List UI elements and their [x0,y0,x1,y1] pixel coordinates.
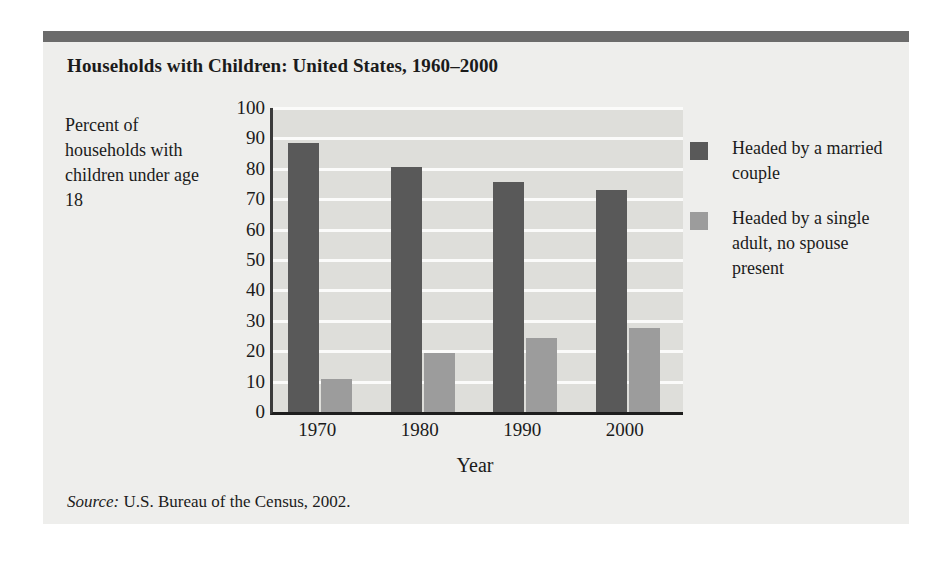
legend-swatch-icon [690,212,708,230]
x-tick-label-1980: 1980 [401,419,439,441]
plot-area [270,108,683,415]
y-tick-label: 40 [246,279,265,301]
legend-item-label: Headed by a married couple [732,136,900,186]
bar-2000-series1 [596,190,627,412]
bar-1970-series1 [288,143,319,412]
y-tick-label: 80 [246,158,265,180]
x-tick-label-2000: 2000 [606,419,644,441]
legend: Headed by a married coupleHeaded by a si… [690,136,900,301]
source-text: U.S. Bureau of the Census, 2002. [119,492,350,511]
source-note: Source: U.S. Bureau of the Census, 2002. [67,492,351,512]
y-tick-label: 70 [246,188,265,210]
y-axis-tick-labels: 0102030405060708090100 [193,108,265,412]
legend-swatch-icon [690,142,708,160]
y-tick-label: 30 [246,310,265,332]
x-axis-tick-labels: 1970198019902000 [270,419,680,445]
gridline [273,168,683,171]
y-tick-label: 20 [246,340,265,362]
figure-panel: Households with Children: United States,… [43,31,909,524]
gridline [273,137,683,140]
y-tick-label: 10 [246,371,265,393]
source-label: Source: [67,492,119,511]
y-tick-label: 60 [246,219,265,241]
y-tick-label: 50 [246,249,265,271]
legend-item-2[interactable]: Headed by a single adult, no spouse pres… [690,206,900,281]
y-tick-label: 90 [246,127,265,149]
gridline [273,107,683,110]
bar-1990-series1 [493,182,524,412]
y-tick-label: 0 [256,401,266,423]
bar-1970-series2 [321,379,352,412]
y-tick-label: 100 [237,97,266,119]
legend-item-label: Headed by a single adult, no spouse pres… [732,206,900,281]
bar-1980-series2 [424,353,455,412]
bar-2000-series2 [629,328,660,412]
x-tick-label-1990: 1990 [503,419,541,441]
legend-item-1[interactable]: Headed by a married couple [690,136,900,186]
x-tick-label-1970: 1970 [298,419,336,441]
x-axis-title: Year [270,454,680,477]
bar-1990-series2 [526,338,557,412]
bar-1980-series1 [391,167,422,412]
